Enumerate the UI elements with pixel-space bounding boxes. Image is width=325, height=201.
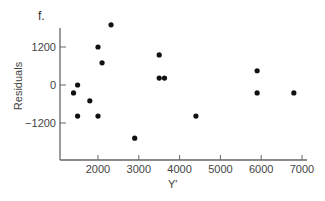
- data-point: [255, 68, 260, 73]
- x-tick-label: 6000: [249, 163, 273, 175]
- x-tick-label: 5000: [208, 163, 232, 175]
- data-point: [95, 44, 100, 49]
- data-point: [75, 82, 80, 87]
- data-point: [162, 75, 167, 80]
- data-point: [75, 113, 80, 118]
- data-point: [193, 113, 198, 118]
- axes: 20003000400050006000700012000−1200: [25, 28, 314, 175]
- data-point: [95, 113, 100, 118]
- data-point: [157, 52, 162, 57]
- data-point: [291, 90, 296, 95]
- x-tick-label: 4000: [167, 163, 191, 175]
- y-axis-title: Residuals: [12, 56, 24, 116]
- y-tick-label: 0: [50, 79, 56, 91]
- x-tick-label: 7000: [290, 163, 314, 175]
- data-points: [71, 22, 297, 141]
- x-axis-title: Y′: [168, 178, 177, 190]
- data-point: [87, 98, 92, 103]
- x-tick-label: 2000: [86, 163, 110, 175]
- y-tick-label: −1200: [25, 117, 56, 129]
- data-point: [132, 136, 137, 141]
- y-tick-label: 1200: [32, 41, 56, 53]
- x-tick-label: 3000: [127, 163, 151, 175]
- data-point: [157, 75, 162, 80]
- panel-label: f.: [38, 9, 45, 23]
- data-point: [99, 60, 104, 65]
- data-point: [108, 22, 113, 27]
- data-point: [71, 90, 76, 95]
- scatter-plot: 20003000400050006000700012000−1200: [0, 0, 325, 201]
- data-point: [255, 90, 260, 95]
